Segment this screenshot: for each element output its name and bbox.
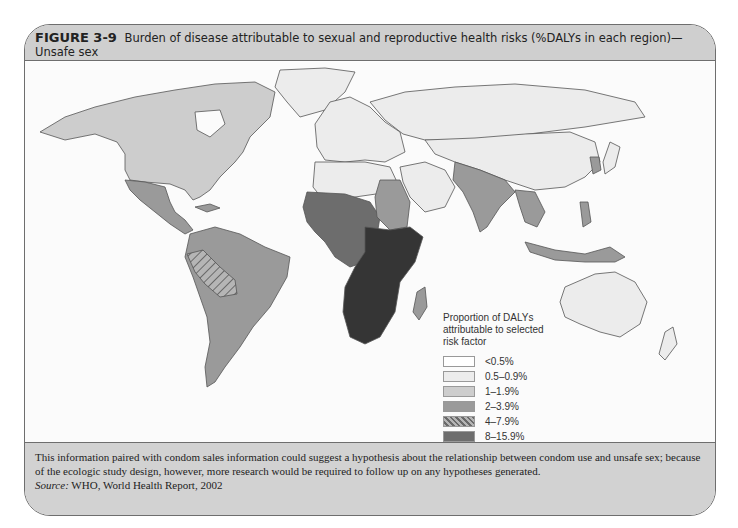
legend-label: <0.5%	[485, 356, 514, 367]
region-caribbean	[195, 204, 220, 212]
region-korea	[590, 157, 601, 174]
legend-swatch	[443, 371, 475, 382]
region-indonesia	[525, 242, 625, 262]
legend-label: 8–15.9%	[485, 431, 524, 442]
figure-title: Burden of disease attributable to sexual…	[125, 31, 683, 45]
legend-title: Proportion of DALYs attributable to sele…	[443, 312, 603, 348]
legend-swatch	[443, 401, 475, 412]
region-new-zealand	[659, 327, 677, 360]
source-text: WHO, World Health Report, 2002	[69, 479, 223, 491]
legend-title-line3: risk factor	[443, 336, 486, 347]
region-madagascar	[413, 287, 427, 320]
legend-swatch	[443, 356, 475, 367]
region-philippines	[580, 202, 591, 227]
legend-label: 2–3.9%	[485, 401, 519, 412]
figure-panel: FIGURE 3-9 Burden of disease attributabl…	[24, 24, 716, 516]
figure-label: FIGURE 3-9	[35, 30, 117, 45]
legend-title-line2: attributable to selected	[443, 324, 544, 335]
figure-caption: This information paired with condom sale…	[25, 442, 715, 515]
legend-swatch	[443, 386, 475, 397]
region-japan	[603, 142, 620, 174]
world-map: Proportion of DALYs attributable to sele…	[25, 62, 715, 442]
legend-label: 0.5–0.9%	[485, 371, 527, 382]
source-label: Source:	[35, 479, 69, 491]
region-egypt-sudan	[375, 180, 410, 230]
region-southeast-asia	[515, 190, 545, 227]
legend-title-line1: Proportion of DALYs	[443, 312, 533, 323]
region-russia	[370, 84, 645, 140]
legend-item: 1–1.9%	[443, 384, 603, 399]
region-north-america	[40, 82, 275, 200]
caption-text: This information paired with condom sale…	[35, 451, 700, 477]
legend-label: 1–1.9%	[485, 386, 519, 397]
legend-label: 4–7.9%	[485, 416, 519, 427]
legend-item: 0.5–0.9%	[443, 369, 603, 384]
legend-item: 4–7.9%	[443, 414, 603, 429]
legend-item: 2–3.9%	[443, 399, 603, 414]
legend-swatch-hatched	[443, 416, 475, 427]
world-map-svg	[25, 62, 715, 442]
legend-swatch	[443, 431, 475, 442]
figure-subtitle: Unsafe sex	[35, 45, 98, 59]
legend-item: <0.5%	[443, 354, 603, 369]
figure-header: FIGURE 3-9 Burden of disease attributabl…	[25, 25, 715, 61]
map-legend: Proportion of DALYs attributable to sele…	[443, 312, 603, 459]
